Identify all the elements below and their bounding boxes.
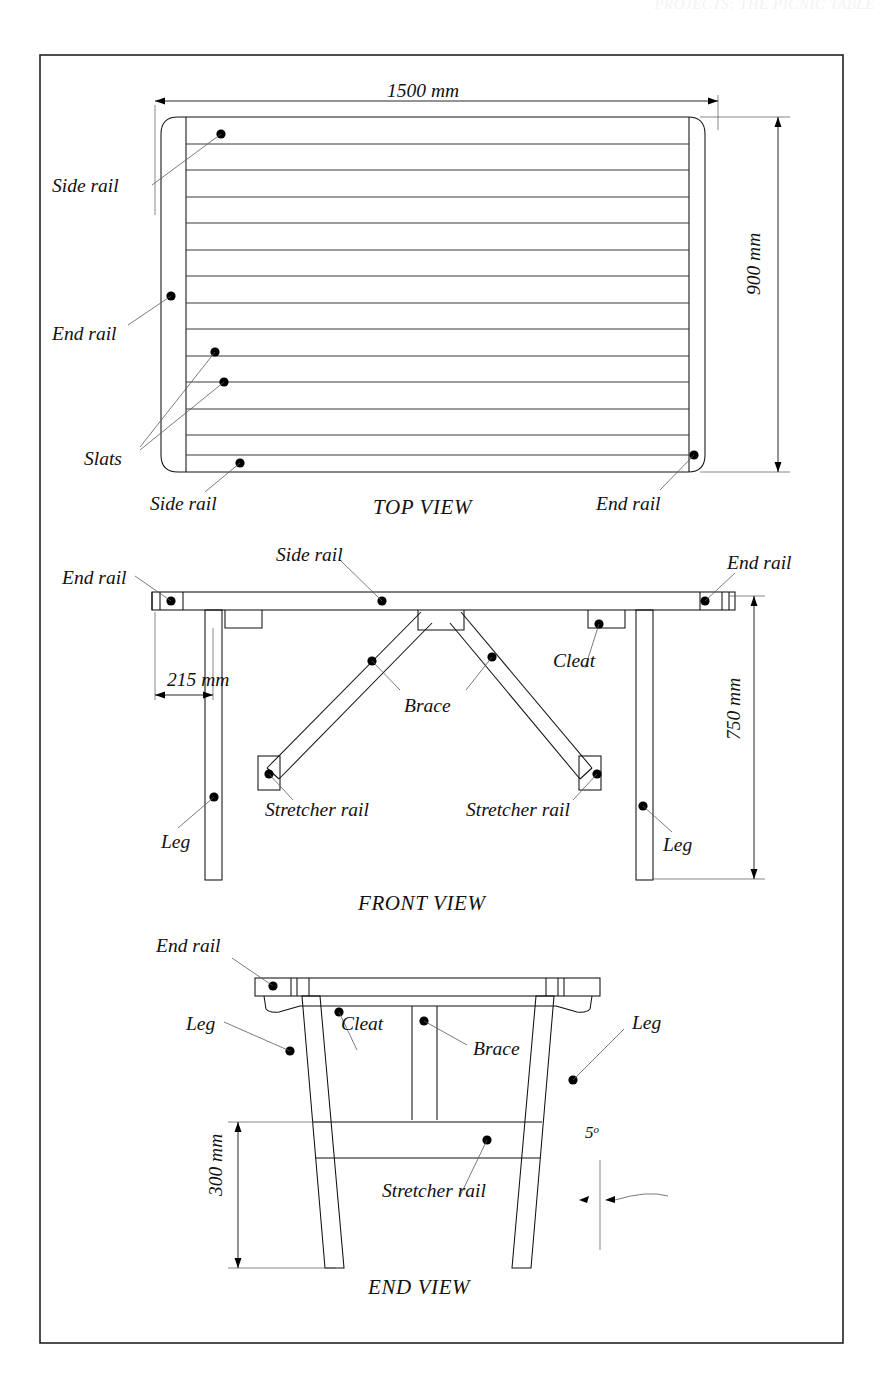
end-cleat-left-curl [264, 996, 300, 1012]
front-leg-left [205, 610, 222, 880]
dimension-label-5degrees: 5o [585, 1123, 600, 1142]
leader-brace-front-right [466, 652, 497, 690]
dimension-label-300mm: 300 mm [205, 1134, 226, 1197]
end-leg-right [512, 996, 554, 1268]
dimension-label-750mm: 750 mm [723, 678, 744, 740]
leader-stretcher-front-left [264, 769, 293, 800]
leader-end-rail-right-top [660, 450, 699, 490]
label-side-rail-top-lower: Side rail [150, 493, 217, 514]
end-tabletop [255, 978, 600, 996]
view-title-end: END VIEW [367, 1275, 472, 1299]
label-brace-end: Brace [473, 1038, 520, 1059]
label-slats: Slats [84, 448, 122, 469]
label-leg-end-right: Leg [631, 1012, 662, 1033]
label-leg-end-left: Leg [185, 1013, 216, 1034]
top-view-group: 1500 mm 900 mm Side rail End rail Slats … [51, 80, 790, 519]
label-end-rail-top-left: End rail [51, 323, 116, 344]
label-brace-front: Brace [404, 695, 451, 716]
label-leg-front-right: Leg [662, 834, 693, 855]
label-stretcher-rail-end: Stretcher rail [382, 1180, 486, 1201]
degree-symbol: o [594, 1123, 600, 1135]
leader-leg-front-right [638, 801, 672, 832]
label-leg-front-left: Leg [160, 831, 191, 852]
front-cleat-centre [418, 610, 464, 630]
leader-side-rail-front [340, 560, 387, 606]
view-title-top: TOP VIEW [373, 495, 474, 519]
front-view-group: End rail Side rail End rail Cleat Brace … [61, 544, 791, 915]
front-cleat-right [588, 610, 625, 628]
label-side-rail-top-upper: Side rail [52, 175, 119, 196]
leader-brace-front-left [367, 656, 400, 690]
label-stretcher-rail-front-left: Stretcher rail [265, 799, 369, 820]
label-end-rail-end: End rail [155, 935, 220, 956]
label-cleat-end: Cleat [341, 1013, 384, 1034]
front-brace-right [450, 612, 592, 779]
leader-side-rail-bottom-top [205, 458, 245, 492]
slat-lines [186, 144, 689, 455]
end-leg-left [302, 996, 344, 1268]
label-end-rail-front-left: End rail [61, 567, 126, 588]
leader-end-rail-front-right [700, 573, 735, 606]
leader-leg-end-left [224, 1022, 295, 1056]
technical-drawing-canvas: 1500 mm 900 mm Side rail End rail Slats … [0, 0, 889, 1391]
dimension-label-215mm: 215 mm [167, 669, 229, 690]
dimension-label-900mm: 900 mm [743, 233, 764, 295]
front-leg-right [636, 610, 653, 880]
dimension-label-1500mm: 1500 mm [387, 80, 459, 101]
end-view-group: End rail Leg Cleat Brace Leg Stretcher r… [155, 935, 668, 1299]
drawing-page: PROJECTS: THE PICNIC TABLE [0, 0, 889, 1391]
end-cleat-right-curl [556, 996, 592, 1012]
leader-side-rail-top [152, 129, 226, 185]
front-tabletop [152, 592, 735, 610]
leader-brace-end [419, 1016, 467, 1045]
leader-leg-front-left [178, 792, 219, 828]
dimension-300mm [228, 1122, 336, 1268]
label-end-rail-top-right: End rail [595, 493, 660, 514]
angle-number: 5 [585, 1123, 594, 1142]
view-title-front: FRONT VIEW [357, 891, 487, 915]
leader-leg-end-right [568, 1029, 624, 1085]
angle-indicator-5deg [579, 1160, 668, 1250]
label-end-rail-front-right: End rail [726, 552, 791, 573]
label-cleat-front: Cleat [553, 650, 596, 671]
label-side-rail-front: Side rail [276, 544, 343, 565]
front-cleat-left [225, 610, 262, 628]
leader-end-rail-left-top [128, 291, 176, 325]
leader-stretcher-front-right [573, 769, 602, 800]
leader-end-rail-front-left [135, 576, 176, 606]
label-stretcher-rail-front-right: Stretcher rail [466, 799, 570, 820]
